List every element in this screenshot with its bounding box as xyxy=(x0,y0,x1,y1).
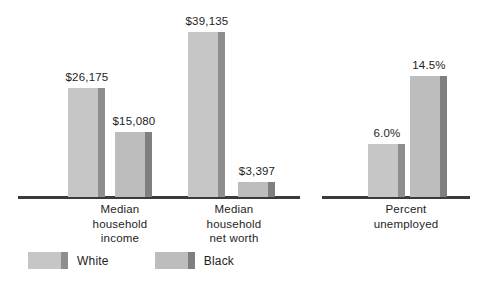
value-label-black-median-household-net-worth: $3,397 xyxy=(220,165,294,178)
value-label-black-median-household-income: $15,080 xyxy=(97,115,171,128)
bar-black-median-household-income xyxy=(115,132,152,197)
value-label-white-median-household-income: $26,175 xyxy=(50,71,124,84)
legend-label-white: White xyxy=(77,254,109,268)
category-label-percent-unemployed: Percent unemployed xyxy=(358,202,454,231)
legend-entry-white: White xyxy=(28,252,109,269)
chart-legend: White Black xyxy=(28,252,234,269)
legend-entry-black: Black xyxy=(155,252,234,269)
value-label-white-median-household-net-worth: $39,135 xyxy=(170,15,244,28)
category-label-median-household-income: Median household income xyxy=(72,202,168,246)
bar-black-percent-unemployed xyxy=(410,76,447,197)
legend-swatch-white-icon xyxy=(28,252,68,269)
bar-white-median-household-income xyxy=(68,88,105,197)
category-label-median-household-net-worth: Median household net worth xyxy=(186,202,282,246)
value-label-black-percent-unemployed: 14.5% xyxy=(392,59,466,72)
bar-white-percent-unemployed xyxy=(368,144,405,197)
bar-chart: $26,175 $15,080 Median household income … xyxy=(0,0,486,290)
legend-swatch-black-icon xyxy=(155,252,195,269)
legend-label-black: Black xyxy=(204,254,234,268)
bar-black-median-household-net-worth xyxy=(238,182,275,197)
